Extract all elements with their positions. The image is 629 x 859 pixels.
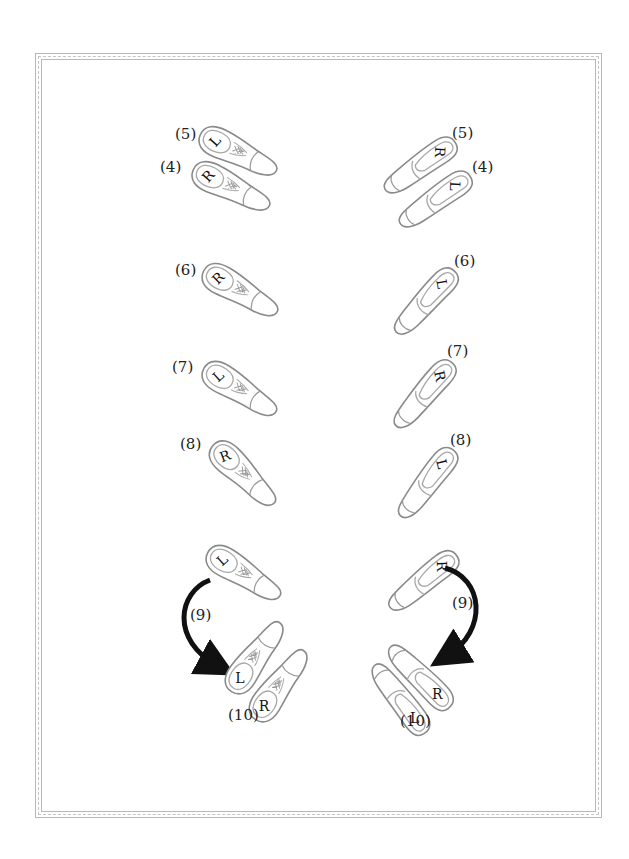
foot-letter: L	[235, 670, 244, 686]
man-shoe-right-step-8: R	[205, 440, 295, 474]
lady-shoe-left-step-10: L	[368, 660, 460, 692]
foot-letter: L	[447, 181, 463, 191]
foot-letter: R	[259, 698, 270, 714]
foot-letter: R	[432, 146, 448, 158]
lady-shoe-left-step-4: L	[385, 172, 477, 204]
lady-shoe-right-step-5: R	[370, 138, 462, 170]
lady-shoe-right-step-7: R	[370, 362, 462, 394]
man-step-6-label: (6)	[175, 263, 196, 278]
man-shoe-left-step-7: L	[198, 360, 288, 394]
man-step-9-label: (9)	[190, 608, 211, 623]
lady-shoe-left-step-8: L	[372, 450, 464, 482]
lady-shoe-left-step-6: L	[372, 270, 464, 302]
man-step-7-label: (7)	[172, 360, 193, 375]
man-shoe-left-step-5: L	[195, 125, 285, 159]
lady-step-10-label: (10)	[400, 714, 431, 729]
man-shoe-right-step-4: R	[188, 160, 278, 194]
lady-step-6-label: (6)	[454, 254, 475, 269]
man-step-10-label: (10)	[228, 708, 259, 723]
man-step-8-label: (8)	[180, 437, 201, 452]
man-step-4-label: (4)	[160, 160, 181, 175]
man-shoe-right-step-6: R	[198, 262, 288, 296]
lady-step-9-label: (9)	[452, 596, 473, 611]
